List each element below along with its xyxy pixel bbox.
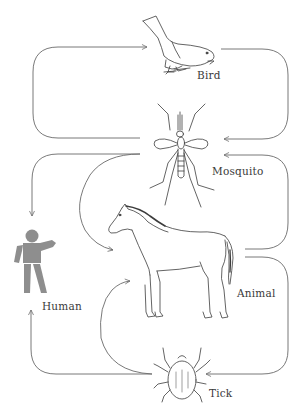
- human-icon: [14, 230, 56, 294]
- arrow-paths: [31, 47, 288, 374]
- tick-icon: [154, 348, 210, 402]
- arrow-animal-to-tick: [206, 257, 288, 374]
- transmission-cycle-diagram: [0, 0, 305, 417]
- arrow-tick-to-human: [31, 310, 152, 374]
- bird-icon: [143, 16, 214, 74]
- horse-icon: [109, 204, 233, 318]
- human-label: Human: [42, 300, 82, 312]
- arrow-mosquito-to-human: [32, 154, 140, 216]
- animal-label: Animal: [237, 287, 275, 299]
- arrow-mosquito-to-animal: [80, 154, 140, 250]
- tick-label: Tick: [209, 387, 232, 399]
- arrow-bird-to-mosquito: [221, 49, 288, 139]
- mosquito-label: Mosquito: [212, 165, 263, 177]
- arrow-mosquito-to-bird: [33, 47, 147, 138]
- mosquito-icon: [150, 104, 214, 207]
- bird-label: Bird: [197, 69, 221, 81]
- arrow-tick-to-animal: [100, 281, 152, 374]
